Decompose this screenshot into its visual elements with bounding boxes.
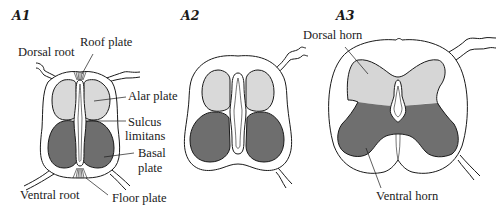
a2-alar-plate-right: [246, 70, 274, 111]
a1-alar-plate-left: [52, 80, 77, 120]
a2-central-canal: [230, 73, 246, 154]
a1-label-floor-plate: Floor plate: [112, 191, 167, 205]
a1-label-sulcus-limitans-2: limitans: [125, 129, 165, 143]
panel-a2-label: A2: [180, 8, 200, 23]
a3-label-dorsal-horn: Dorsal horn: [303, 28, 363, 42]
a1-label-dorsal-root: Dorsal root: [18, 45, 75, 59]
panel-a1-label: A1: [11, 8, 30, 23]
a1-central-canal: [74, 80, 86, 166]
a1-label-roof-plate: Roof plate: [80, 35, 133, 49]
a3-label-ventral-horn: Ventral horn: [376, 189, 439, 203]
a1-label-basal-plate-2: plate: [138, 161, 163, 175]
panel-a2: A2: [180, 8, 308, 188]
spinal-cord-development-diagram: A1: [0, 0, 501, 211]
a1-label-alar-plate: Alar plate: [128, 89, 178, 103]
a1-label-basal-plate-1: Basal: [138, 146, 166, 160]
panel-a1: A1: [11, 8, 178, 205]
a1-label-sulcus-limitans-1: Sulcus: [128, 115, 161, 129]
a1-label-ventral-root: Ventral root: [20, 188, 80, 202]
a2-alar-plate-left: [202, 70, 230, 111]
panel-a3-label: A3: [335, 8, 355, 23]
panel-a3: A3 Dorsal horn Ventral horn: [303, 8, 496, 203]
